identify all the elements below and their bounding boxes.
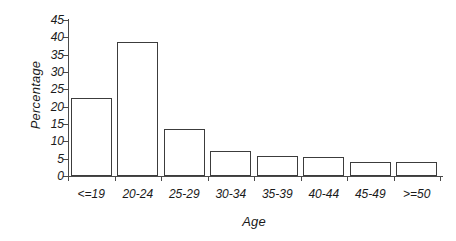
bar-chart: Percentage 051015202530354045 Age <=1920… xyxy=(0,0,456,241)
y-tick-label: 5 xyxy=(57,151,64,167)
x-axis-title: Age xyxy=(68,214,440,229)
y-tick-label: 20 xyxy=(51,99,64,115)
y-tick-label: 45 xyxy=(51,12,64,28)
bar-35-39 xyxy=(257,156,298,176)
x-tick-mark xyxy=(394,176,395,181)
x-tick-mark xyxy=(208,176,209,181)
bar-40-44 xyxy=(303,157,344,176)
x-tick-label-45-49: 45-49 xyxy=(347,186,394,202)
x-axis-line xyxy=(68,176,443,177)
bar-25-29 xyxy=(164,129,205,176)
y-tick-label: 10 xyxy=(51,133,64,149)
bar->=50 xyxy=(396,162,437,176)
x-tick-label-35-39: 35-39 xyxy=(254,186,301,202)
y-tick-label: 35 xyxy=(51,47,64,63)
x-tick-mark xyxy=(68,176,69,181)
y-tick-label: 25 xyxy=(51,81,64,97)
x-tick-mark xyxy=(161,176,162,181)
x-tick-mark xyxy=(254,176,255,181)
x-tick-label-25-29: 25-29 xyxy=(161,186,208,202)
x-tick-label-40-44: 40-44 xyxy=(301,186,348,202)
y-axis-title: Percentage xyxy=(24,0,48,190)
x-tick-label->=50: >=50 xyxy=(394,186,441,202)
y-tick-label: 15 xyxy=(51,116,64,132)
y-tick-label: 40 xyxy=(51,29,64,45)
x-tick-mark xyxy=(440,176,441,181)
bar-<=19 xyxy=(71,98,112,176)
y-tick-label: 0 xyxy=(57,168,64,184)
plot-area: 051015202530354045 xyxy=(68,20,440,176)
y-tick-label: 30 xyxy=(51,64,64,80)
x-tick-mark xyxy=(347,176,348,181)
bar-20-24 xyxy=(117,42,158,177)
x-tick-mark xyxy=(115,176,116,181)
bar-30-34 xyxy=(210,151,251,176)
x-tick-label-20-24: 20-24 xyxy=(115,186,162,202)
x-tick-mark xyxy=(301,176,302,181)
x-tick-label-30-34: 30-34 xyxy=(208,186,255,202)
x-tick-label-<=19: <=19 xyxy=(68,186,115,202)
bar-45-49 xyxy=(350,162,391,176)
